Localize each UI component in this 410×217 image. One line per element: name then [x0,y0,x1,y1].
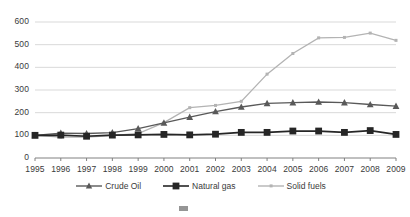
data-point [135,131,142,138]
data-point [393,131,400,138]
data-point [266,73,269,76]
data-point [289,128,296,135]
series-natural-gas [32,127,400,139]
data-point [315,128,322,135]
y-axis-tick-label: 0 [0,152,29,162]
data-point [214,104,217,107]
data-point [317,36,320,39]
series-solid-fuels [34,32,398,139]
legend-label-natural-gas: Natural gas [192,181,235,191]
data-point [264,129,271,136]
data-point [109,132,116,139]
series-line [35,33,396,137]
clipped-secondary-legend [0,206,402,217]
chart-legend: Crude Oil Natural gas Solid fuels [0,178,402,194]
legend-marker-solid-fuels [258,181,284,191]
data-point [32,132,39,139]
y-axis-tick-label: 100 [0,129,29,139]
data-point [369,32,372,35]
clipped-legend-swatch [179,206,188,211]
y-axis-tick-label: 600 [0,16,29,26]
data-point [212,131,219,138]
legend-marker-natural-gas [163,181,189,191]
legend-item-solid-fuels[interactable]: Solid fuels [258,181,326,191]
data-point [238,129,245,136]
data-point [57,132,64,139]
data-point [240,100,243,103]
x-axis-tick-label: 2009 [379,164,410,174]
data-point [161,131,168,138]
data-point [291,52,294,55]
data-point [395,39,398,42]
legend-item-natural-gas[interactable]: Natural gas [163,181,235,191]
data-point [83,133,90,140]
data-point [188,106,191,109]
data-point [367,127,374,134]
y-axis-tick-label: 500 [0,39,29,49]
clipped-legend-item [179,206,191,211]
y-axis-tick-label: 400 [0,61,29,71]
legend-item-crude-oil[interactable]: Crude Oil [76,181,141,191]
legend-marker-crude-oil [76,181,102,191]
legend-label-crude-oil: Crude Oil [105,181,141,191]
data-point [343,36,346,39]
y-axis-tick-label: 300 [0,84,29,94]
y-axis-tick-label: 200 [0,107,29,117]
data-point [186,131,193,138]
data-point [341,129,348,136]
legend-label-solid-fuels: Solid fuels [287,181,326,191]
